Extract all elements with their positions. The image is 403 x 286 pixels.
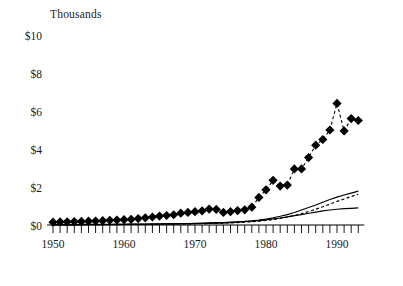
series-lines	[53, 103, 358, 224]
chart-figure: Thousands $10 $8 $6 $4 $2 $0 1950 1960 1…	[0, 0, 403, 286]
x-axis-minor-ticks	[53, 225, 358, 233]
plot-area	[0, 0, 403, 286]
series-markers	[48, 99, 363, 227]
